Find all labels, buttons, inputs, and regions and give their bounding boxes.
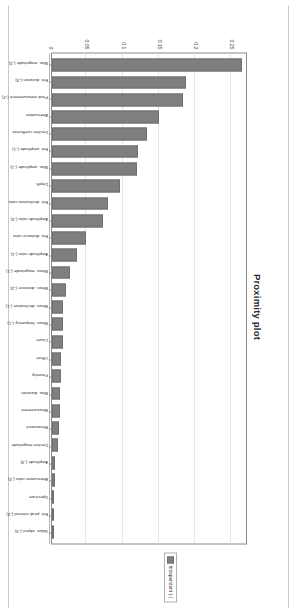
bar[interactable] bbox=[52, 456, 55, 469]
category-tick: Mean. frequency (-1) bbox=[33, 316, 51, 333]
value-axis-tick-label: 0 bbox=[48, 47, 54, 50]
category-tick: Max. magnitude (-2) bbox=[33, 56, 51, 73]
tick-mark bbox=[49, 134, 51, 135]
category-tick: Offset bbox=[33, 351, 51, 368]
category-axis-tick-label: Amplitude ratio (-2) bbox=[11, 216, 48, 220]
tick-mark bbox=[49, 272, 51, 273]
bar[interactable] bbox=[52, 128, 147, 141]
category-tick: Max. duration bbox=[33, 385, 51, 402]
bar-slot bbox=[52, 489, 246, 506]
bar[interactable] bbox=[52, 232, 86, 245]
bar[interactable] bbox=[52, 508, 54, 521]
bar[interactable] bbox=[52, 422, 59, 435]
page-canvas: Proximity plot 00.050.10.150.20.25 Max. … bbox=[0, 0, 298, 614]
tick-mark bbox=[49, 377, 51, 378]
bar[interactable] bbox=[52, 439, 58, 452]
category-axis-tick-label: Measurement bbox=[21, 407, 48, 411]
category-axis-tick-label: Peak measurement (-2) bbox=[2, 94, 48, 98]
tick-mark bbox=[49, 168, 51, 169]
chart-title: Proximity plot bbox=[252, 35, 263, 580]
tick-mark bbox=[49, 429, 51, 430]
category-tick: Est. peak interval (-2) bbox=[33, 507, 51, 524]
category-tick: Value. object (-3) bbox=[33, 524, 51, 541]
bar[interactable] bbox=[52, 145, 138, 158]
category-tick: Est. declination ratio bbox=[33, 194, 51, 211]
category-tick: Mean. declination (-1) bbox=[33, 299, 51, 316]
bar-slot bbox=[52, 160, 246, 177]
bar[interactable] bbox=[52, 525, 54, 538]
category-tick: Decline coefficient bbox=[33, 125, 51, 142]
category-axis-tick-label: Max. magnitude (-2) bbox=[9, 60, 48, 64]
bar-series bbox=[52, 54, 246, 544]
category-axis-tick-label: Est. declination ratio bbox=[8, 199, 48, 203]
bar[interactable] bbox=[52, 283, 66, 296]
bar-slot bbox=[52, 316, 246, 333]
tick-mark bbox=[49, 307, 51, 308]
chart-legend[interactable]: Independent (-) bbox=[164, 553, 177, 603]
bar[interactable] bbox=[52, 301, 63, 314]
category-axis-tick-label: Est. peak interval (-2) bbox=[6, 511, 48, 515]
proximity-plot-figure: Proximity plot 00.050.10.150.20.25 Max. … bbox=[33, 35, 265, 580]
tick-mark bbox=[49, 446, 51, 447]
bar[interactable] bbox=[52, 353, 61, 366]
value-axis-tick-label: 0.15 bbox=[157, 39, 163, 49]
category-axis-tick-label: Amplitude ratio (-1) bbox=[11, 251, 48, 255]
bar-slot bbox=[52, 333, 246, 350]
category-axis-tick-label: Max. duration bbox=[21, 390, 48, 394]
tick-mark bbox=[49, 325, 51, 326]
category-tick: Max. amplitude (-1) bbox=[33, 160, 51, 177]
tick-mark bbox=[49, 64, 51, 65]
category-tick: Measurement bbox=[33, 403, 51, 420]
bar-slot bbox=[52, 91, 246, 108]
tick-mark bbox=[49, 516, 51, 517]
bar[interactable] bbox=[52, 111, 159, 124]
bar-slot bbox=[52, 350, 246, 367]
bar[interactable] bbox=[52, 180, 120, 193]
bar[interactable] bbox=[52, 76, 186, 89]
bar-slot bbox=[52, 454, 246, 471]
legend-label: Independent (-) bbox=[168, 566, 173, 599]
category-axis-tick-label: Depth bbox=[36, 181, 48, 185]
tick-mark bbox=[49, 533, 51, 534]
bar[interactable] bbox=[52, 491, 54, 504]
bar[interactable] bbox=[52, 93, 183, 106]
category-axis-tick-label: Count bbox=[36, 338, 48, 342]
bar[interactable] bbox=[52, 162, 137, 175]
bar-slot bbox=[52, 143, 246, 160]
category-tick: Est. amplitude (-1) bbox=[33, 142, 51, 159]
bar-slot bbox=[52, 177, 246, 194]
bar[interactable] bbox=[52, 59, 242, 72]
category-axis-tick-label: Max. amplitude (-1) bbox=[10, 164, 48, 168]
bar[interactable] bbox=[52, 197, 108, 210]
category-tick: Mean. distance (-2) bbox=[33, 281, 51, 298]
bar[interactable] bbox=[52, 474, 55, 487]
plot-area bbox=[51, 53, 247, 545]
tick-mark bbox=[49, 463, 51, 464]
bar[interactable] bbox=[52, 335, 63, 348]
bar[interactable] bbox=[52, 249, 77, 262]
bar[interactable] bbox=[52, 214, 103, 227]
category-axis-tick-label: Attenuation ratio (-3) bbox=[8, 476, 48, 480]
category-axis-tick-label: Mean. declination (-1) bbox=[6, 303, 48, 307]
value-axis-tick-label: 0.1 bbox=[121, 42, 127, 49]
category-tick: Resonance bbox=[33, 420, 51, 437]
bar-slot bbox=[52, 229, 246, 246]
tick-mark bbox=[49, 186, 51, 187]
category-axis-tick-label: Est. duration (-3) bbox=[15, 77, 48, 81]
category-axis-tick-label: Mean. magnitude (-1) bbox=[6, 268, 48, 272]
bar-slot bbox=[52, 368, 246, 385]
category-axis-tick-label: Est. distance ratio bbox=[13, 233, 48, 237]
bar[interactable] bbox=[52, 370, 61, 383]
category-tick: Peak measurement (-2) bbox=[33, 90, 51, 107]
category-axis-tick-label: Decline coefficient bbox=[12, 129, 48, 133]
tick-mark bbox=[49, 290, 51, 291]
bar[interactable] bbox=[52, 387, 60, 400]
tick-mark bbox=[49, 151, 51, 152]
bar[interactable] bbox=[52, 318, 63, 331]
tick-mark bbox=[49, 394, 51, 395]
bar[interactable] bbox=[52, 404, 60, 417]
bar[interactable] bbox=[52, 266, 71, 279]
category-axis-tick-label: Value. object (-3) bbox=[15, 528, 48, 532]
category-axis-tick-label: Mean. distance (-2) bbox=[10, 285, 48, 289]
bar-slot bbox=[52, 264, 246, 281]
